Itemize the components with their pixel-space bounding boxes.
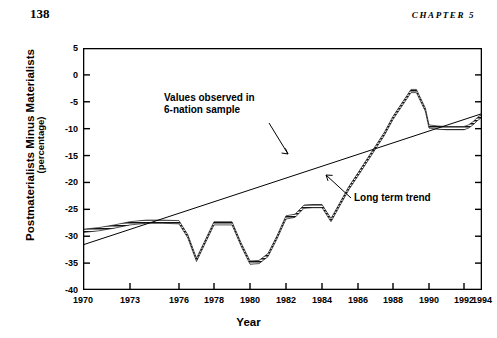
- y-axis-title: Postmaterialists Minus Materialists (per…: [24, 20, 58, 270]
- x-tick-label: 1978: [204, 295, 224, 305]
- y-tick-label: -40: [65, 285, 78, 295]
- x-tick-label: 1973: [120, 295, 140, 305]
- plot-area: Values observed in 6-nation sample Long …: [83, 48, 482, 290]
- y-axis-title-units: (percentage): [36, 20, 46, 270]
- y-tick-label: -10: [65, 124, 78, 134]
- x-tick-label: 1980: [240, 295, 260, 305]
- y-tick-label: -5: [70, 97, 78, 107]
- x-tick-label: 1976: [169, 295, 189, 305]
- y-tick-label: 0: [73, 70, 78, 80]
- x-tick-label: 1982: [276, 295, 296, 305]
- y-tick-label: -20: [65, 177, 78, 187]
- x-tick-label: 1984: [312, 295, 332, 305]
- x-tick-label: 1990: [419, 295, 439, 305]
- x-tick-label: 1970: [73, 295, 93, 305]
- x-tick-label: 1988: [383, 295, 403, 305]
- trend-line-annotation: Long term trend: [354, 192, 431, 204]
- x-tick-label: 1986: [348, 295, 368, 305]
- chart-svg: [83, 48, 482, 290]
- x-tick-label: 1994: [472, 295, 492, 305]
- y-tick-label: -15: [65, 151, 78, 161]
- axis-ticks: [83, 75, 482, 290]
- x-axis-title: Year: [0, 316, 497, 328]
- y-tick-label: -35: [65, 258, 78, 268]
- y-tick-label: -25: [65, 204, 78, 214]
- y-tick-label: -30: [65, 231, 78, 241]
- observed-series-band: [83, 89, 482, 264]
- y-tick-label: 5: [73, 43, 78, 53]
- chapter-running-head: CHAPTER 5: [412, 10, 475, 20]
- plot-frame: [84, 49, 482, 290]
- chart-page: 138 CHAPTER 5 Postmaterialists Minus Mat…: [0, 0, 497, 338]
- observed-series-annotation: Values observed in 6-nation sample: [164, 92, 255, 115]
